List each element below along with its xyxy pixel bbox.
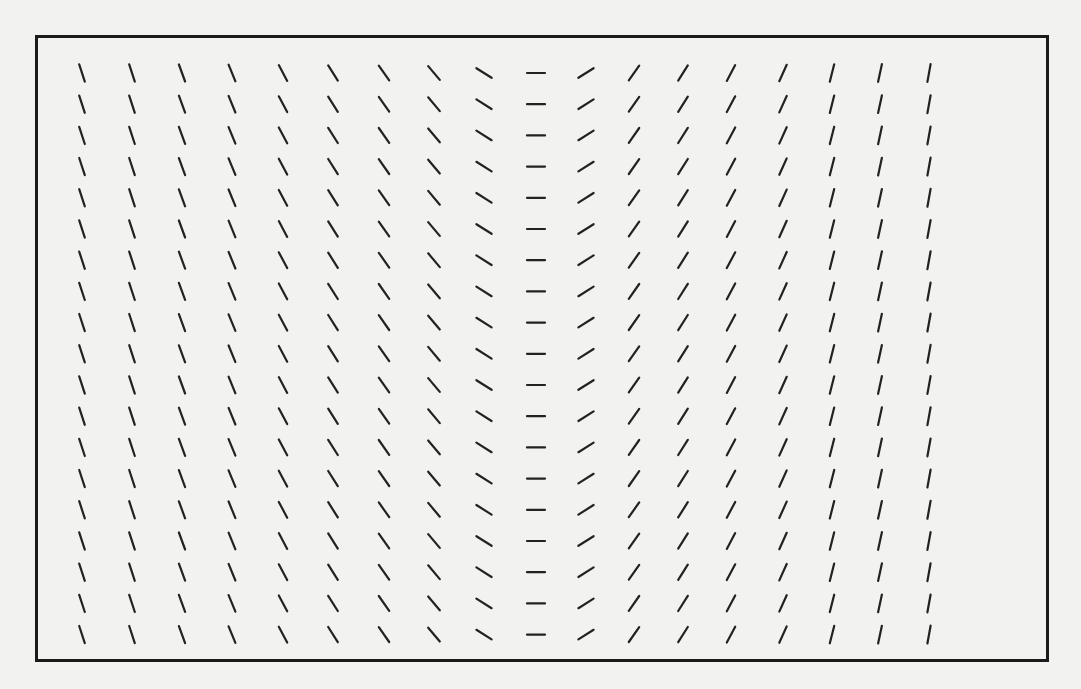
slope-segment [428, 597, 440, 611]
slope-segment [129, 283, 135, 300]
slope-segment [927, 251, 930, 269]
slope-segment [379, 534, 389, 549]
slope-segment [830, 96, 834, 113]
slope-segment [476, 505, 491, 515]
slope-segment [79, 501, 85, 518]
slope-segment [328, 627, 338, 642]
slope-segment [927, 563, 930, 581]
slope-segment [129, 189, 135, 206]
slope-segment [727, 315, 735, 331]
slope-segment [428, 97, 440, 111]
slope-segment [328, 533, 338, 548]
slope-segment [629, 346, 639, 361]
slope-segment [830, 345, 834, 362]
slope-segment [727, 346, 735, 362]
slope-segment [179, 283, 185, 300]
slope-segment [379, 315, 389, 330]
slope-segment [878, 189, 882, 207]
slope-segment [179, 65, 185, 82]
slope-segment [878, 595, 882, 613]
slope-segment [476, 99, 491, 109]
slope-segment [328, 502, 338, 517]
slope-segment [129, 252, 135, 269]
slope-segment [578, 99, 593, 109]
slope-segment [229, 96, 236, 113]
slope-segment [727, 96, 735, 112]
slope-segment [179, 314, 185, 331]
slope-segment [79, 564, 85, 581]
slope-segment [678, 471, 688, 486]
slope-segment [79, 314, 85, 331]
slope-segment [629, 190, 639, 205]
slope-segment [476, 380, 491, 390]
slope-segment [578, 255, 593, 265]
slope-segment [476, 536, 491, 546]
slope-segment [229, 439, 236, 456]
slope-segment [428, 129, 440, 143]
slope-segment [476, 318, 491, 328]
slope-segment [229, 595, 236, 612]
slope-segment [476, 411, 491, 421]
slope-segment [727, 190, 735, 206]
slope-segment [428, 441, 440, 455]
slope-segment [629, 596, 639, 611]
slope-segment [79, 64, 85, 81]
slope-segment [179, 96, 185, 113]
slope-segment [878, 64, 882, 82]
slope-segment [727, 284, 735, 300]
slope-segment [179, 221, 185, 238]
slope-segment [927, 283, 930, 301]
slope-segment [129, 564, 135, 581]
slope-segment [629, 128, 639, 143]
slope-segment [830, 439, 834, 456]
slope-segment [179, 189, 185, 206]
slope-segment [727, 533, 735, 549]
slope-segment [179, 564, 185, 581]
slope-segment [129, 64, 135, 81]
slope-segment [927, 439, 930, 457]
slope-segment [129, 376, 135, 393]
slope-segment [328, 596, 338, 611]
slope-segment [678, 533, 688, 548]
slope-field [0, 0, 1081, 689]
slope-segment [629, 627, 639, 642]
slope-segment [428, 316, 440, 330]
slope-segment [830, 314, 834, 331]
slope-segment [379, 378, 389, 393]
slope-segment [878, 470, 882, 488]
slope-segment [379, 471, 389, 486]
slope-segment [927, 64, 930, 82]
slope-segment [79, 158, 85, 175]
slope-segment [476, 349, 491, 359]
slope-segment [629, 66, 639, 81]
slope-segment [476, 131, 491, 141]
slope-segment [229, 158, 236, 175]
slope-segment [179, 408, 185, 425]
slope-segment [129, 532, 135, 549]
slope-segment [878, 532, 882, 550]
slope-segment [727, 159, 735, 175]
slope-segment [727, 471, 735, 487]
slope-segment [179, 439, 185, 456]
slope-segment [428, 628, 440, 642]
slope-segment [328, 97, 338, 112]
slope-segment [830, 626, 834, 643]
slope-segment [179, 501, 185, 518]
slope-segment [279, 596, 287, 612]
slope-segment [830, 189, 834, 206]
slope-segment [779, 626, 786, 642]
slope-segment [578, 567, 593, 577]
slope-segment [878, 158, 882, 176]
slope-segment [129, 439, 135, 456]
slope-segment [629, 502, 639, 517]
slope-segment [279, 315, 287, 331]
slope-segment [229, 470, 236, 487]
slope-segment [878, 283, 882, 301]
slope-segment [129, 220, 135, 237]
slope-segment [476, 474, 491, 484]
slope-segment [129, 595, 135, 612]
slope-segment [279, 159, 287, 175]
slope-segment [79, 127, 85, 144]
slope-segment [927, 95, 930, 113]
slope-segment [878, 220, 882, 238]
